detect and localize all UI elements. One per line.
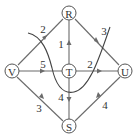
node-v: V <box>5 64 19 78</box>
node-s-label: S <box>66 121 72 133</box>
arrow-u-s <box>96 92 101 98</box>
edge-u-s <box>75 77 120 121</box>
weight-t-s: 4 <box>58 91 64 103</box>
arrow-t-r <box>67 40 72 45</box>
node-r: R <box>62 6 76 20</box>
weight-r-u: 3 <box>101 25 107 37</box>
node-u-label: U <box>121 66 129 78</box>
weight-v-s: 3 <box>36 102 42 114</box>
node-t-label: T <box>66 66 73 78</box>
weight-u-s: 4 <box>102 99 108 111</box>
node-r-label: R <box>65 8 73 20</box>
weight-t-r: 1 <box>58 38 64 50</box>
node-u: U <box>118 64 132 78</box>
node-t: T <box>62 64 76 78</box>
arrow-t-s <box>67 97 72 102</box>
arrow-t-u <box>97 69 102 74</box>
weight-t-u: 2 <box>87 58 93 70</box>
network-diagram: 2 3 1 5 2 3 4 4 R V T U S <box>0 0 138 135</box>
node-v-label: V <box>8 66 16 78</box>
edge-v-s <box>17 77 63 121</box>
weight-v-r: 2 <box>40 23 46 35</box>
node-s: S <box>62 119 76 133</box>
weight-v-t: 5 <box>40 58 46 70</box>
